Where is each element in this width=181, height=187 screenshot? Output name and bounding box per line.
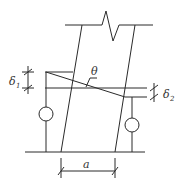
delta2-label: δ bbox=[163, 88, 170, 101]
delta1-label: δ bbox=[9, 75, 16, 88]
left-gauge-icon bbox=[39, 107, 53, 121]
top-line-with-break bbox=[65, 11, 153, 41]
rotation-line bbox=[46, 72, 125, 97]
a-label: a bbox=[83, 158, 90, 171]
diagram-canvas: θ δ 1 δ 2 a bbox=[0, 0, 181, 187]
delta2-subscript: 2 bbox=[169, 95, 175, 103]
right-gauge-icon bbox=[125, 118, 139, 132]
theta-label: θ bbox=[91, 65, 98, 78]
delta1-subscript: 1 bbox=[16, 82, 20, 90]
